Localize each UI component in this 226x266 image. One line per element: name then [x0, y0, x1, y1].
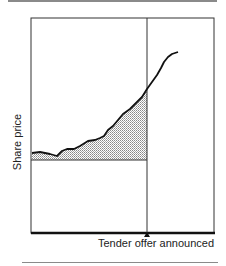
bottom-rule: [22, 262, 218, 263]
event-label: Tender offer announced: [98, 237, 214, 249]
share-price-diagram: [0, 0, 226, 266]
abnormal-return-shading: [32, 89, 147, 160]
y-axis-label: Share price: [11, 107, 23, 177]
